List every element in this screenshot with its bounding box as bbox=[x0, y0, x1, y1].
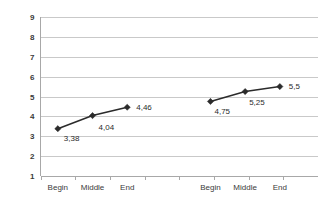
data-point-label: 4,75 bbox=[214, 107, 230, 116]
y-axis-tick-label: 2 bbox=[30, 152, 35, 161]
y-axis-tick-label: 4 bbox=[30, 112, 35, 121]
x-axis-tick-label: End bbox=[273, 183, 287, 192]
y-axis-tick-label: 6 bbox=[30, 73, 35, 82]
x-axis-tick-label: Begin bbox=[200, 183, 220, 192]
data-point-label: 3,38 bbox=[64, 134, 80, 143]
x-axis-tick-label: Middle bbox=[81, 183, 105, 192]
data-point-label: 4,04 bbox=[99, 123, 115, 132]
y-axis-tick-label: 8 bbox=[30, 33, 35, 42]
data-point-label: 4,46 bbox=[136, 103, 152, 112]
y-axis-tick-label: 5 bbox=[30, 93, 35, 102]
x-axis-tick-label: Middle bbox=[233, 183, 257, 192]
y-axis-tick-label: 9 bbox=[30, 13, 35, 22]
x-axis-tick-label: End bbox=[120, 183, 134, 192]
chart-background bbox=[0, 0, 330, 204]
x-axis-tick-label: Begin bbox=[48, 183, 68, 192]
y-axis-tick-label: 3 bbox=[30, 132, 35, 141]
data-point-label: 5,5 bbox=[289, 82, 301, 91]
chart-container: 123456789 BeginMiddleEndBeginMiddleEnd 3… bbox=[0, 0, 330, 204]
y-tick-labels-group: 123456789 bbox=[30, 13, 35, 181]
y-axis-tick-label: 1 bbox=[30, 172, 35, 181]
line-chart: 123456789 BeginMiddleEndBeginMiddleEnd 3… bbox=[0, 0, 330, 204]
y-axis-tick-label: 7 bbox=[30, 53, 35, 62]
data-point-label: 5,25 bbox=[249, 98, 265, 107]
